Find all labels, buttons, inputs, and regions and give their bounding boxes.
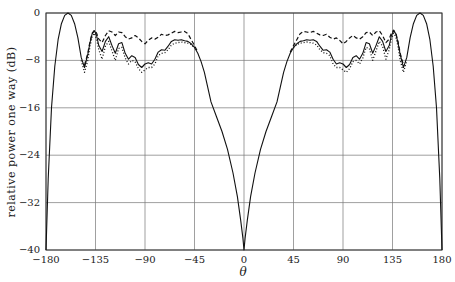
series-dashed-line xyxy=(85,30,198,65)
x-tick-label: 90 xyxy=(337,254,350,265)
x-axis-ticks: −180−135−90−4504590135180 xyxy=(32,254,451,265)
x-tick-label: −180 xyxy=(32,254,59,265)
radiation-pattern-chart: 0−8−16−24−32−40 −180−135−90−450459013518… xyxy=(0,0,455,282)
series-dotted-line xyxy=(294,33,407,72)
series-dashed-line xyxy=(290,30,403,65)
y-tick-label: −32 xyxy=(19,197,40,208)
x-tick-label: −135 xyxy=(82,254,109,265)
x-tick-label: 180 xyxy=(432,254,451,265)
y-axis-ticks: 0−8−16−24−32−40 xyxy=(19,7,40,255)
x-axis-label: θ xyxy=(239,265,247,279)
y-tick-label: 0 xyxy=(34,7,40,18)
y-tick-label: −24 xyxy=(19,149,40,160)
x-tick-label: 135 xyxy=(383,254,402,265)
grid-lines xyxy=(46,13,442,250)
y-axis-label: relative power one way (dB) xyxy=(5,47,18,218)
x-tick-label: −90 xyxy=(134,254,155,265)
x-tick-label: −45 xyxy=(184,254,205,265)
x-tick-label: 0 xyxy=(241,254,247,265)
y-tick-label: −16 xyxy=(19,102,40,113)
x-tick-label: 45 xyxy=(287,254,300,265)
y-tick-label: −8 xyxy=(25,54,40,65)
